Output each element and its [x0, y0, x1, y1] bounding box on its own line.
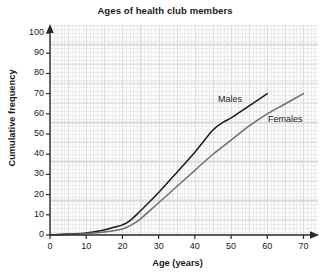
y-tick-label-30: 30 — [22, 168, 44, 178]
x-tick-label-70: 70 — [292, 241, 316, 251]
series-line-males — [50, 94, 267, 235]
tick-marks — [46, 33, 304, 239]
y-tick-label-90: 90 — [22, 47, 44, 57]
x-tick-label-50: 50 — [219, 241, 243, 251]
x-tick-label-60: 60 — [255, 241, 279, 251]
series-annotation-males: Males — [218, 94, 242, 104]
y-axis-title: Cumulative frequency — [7, 43, 17, 193]
x-axis-title: Age (years) — [50, 258, 305, 268]
y-tick-label-0: 0 — [22, 229, 44, 239]
y-tick-label-50: 50 — [22, 128, 44, 138]
x-tick-label-20: 20 — [110, 241, 134, 251]
y-tick-label-60: 60 — [22, 108, 44, 118]
y-tick-label-80: 80 — [22, 67, 44, 77]
x-tick-label-10: 10 — [74, 241, 98, 251]
series-paths — [50, 94, 304, 235]
chart-figure: Ages of health club members 010203040506… — [0, 0, 330, 278]
x-tick-label-0: 0 — [38, 241, 62, 251]
x-tick-label-40: 40 — [183, 241, 207, 251]
y-tick-label-20: 20 — [22, 189, 44, 199]
y-axis-arrow-icon — [46, 24, 54, 33]
x-axis-arrow-icon — [310, 231, 319, 239]
y-tick-label-10: 10 — [22, 209, 44, 219]
axis-lines — [46, 24, 319, 239]
y-tick-label-70: 70 — [22, 88, 44, 98]
chart-canvas — [0, 0, 330, 278]
x-tick-label-30: 30 — [147, 241, 171, 251]
y-tick-label-40: 40 — [22, 148, 44, 158]
y-tick-label-100: 100 — [22, 27, 44, 37]
series-annotation-females: Females — [268, 114, 303, 124]
series-line-females — [50, 94, 304, 235]
